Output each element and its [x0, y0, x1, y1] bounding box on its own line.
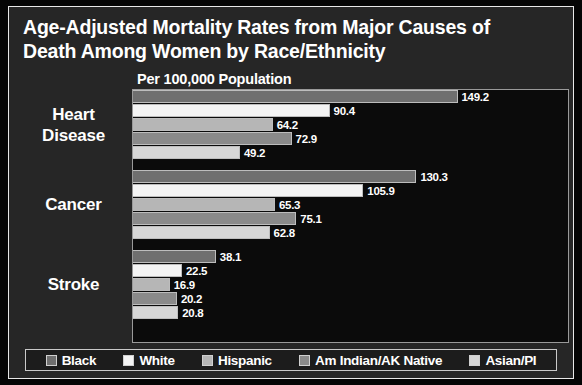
bar: [133, 212, 296, 225]
legend-label: Asian/PI: [485, 353, 536, 368]
bar-row: 22.5: [133, 264, 568, 277]
bar-value-label: 72.9: [296, 133, 317, 145]
chart-title-line-1: Age-Adjusted Mortality Rates from Major …: [23, 15, 563, 39]
bar: [133, 90, 458, 103]
bar-value-label: 65.3: [279, 199, 300, 211]
bar-value-label: 38.1: [220, 251, 241, 263]
bar: [133, 170, 416, 183]
chart-subtitle: Per 100,000 Population: [137, 71, 291, 87]
category-label-line: Heart: [16, 104, 131, 125]
bar-row: 20.2: [133, 292, 568, 305]
bar-value-label: 20.8: [182, 307, 203, 319]
bar-row: 62.8: [133, 226, 568, 239]
bar: [133, 198, 275, 211]
bar-row: 20.8: [133, 306, 568, 319]
legend-swatch-icon: [46, 355, 57, 366]
legend-label: Hispanic: [218, 353, 272, 368]
category-label: Cancer: [16, 194, 131, 215]
bar: [133, 250, 216, 263]
bar: [133, 292, 177, 305]
category-label-line: Stroke: [16, 274, 131, 295]
legend-label: Am Indian/AK Native: [315, 353, 442, 368]
group-spacer: [133, 240, 568, 250]
bar-value-label: 64.2: [277, 119, 298, 131]
bar-value-label: 16.9: [174, 279, 195, 291]
bar-value-label: 20.2: [181, 293, 202, 305]
bar: [133, 104, 330, 117]
bar: [133, 306, 178, 319]
bar-row: 72.9: [133, 132, 568, 145]
chart-legend: BlackWhiteHispanicAm Indian/AK NativeAsi…: [25, 349, 557, 371]
legend-swatch-icon: [299, 355, 310, 366]
legend-item[interactable]: Asian/PI: [469, 353, 536, 368]
bar-value-label: 105.9: [367, 185, 394, 197]
bar-row: 149.2: [133, 90, 568, 103]
category-label: HeartDisease: [16, 104, 131, 146]
bar-value-label: 62.8: [274, 227, 295, 239]
legend-swatch-icon: [202, 355, 213, 366]
bar-row: 90.4: [133, 104, 568, 117]
category-label: Stroke: [16, 274, 131, 295]
chart-panel: Age-Adjusted Mortality Rates from Major …: [8, 6, 574, 379]
bar-row: 65.3: [133, 198, 568, 211]
bar: [133, 278, 170, 291]
bar-group: 38.122.516.920.220.8: [133, 250, 568, 319]
bar: [133, 264, 182, 277]
plot-inner: 149.290.464.272.949.2130.3105.965.375.16…: [133, 90, 568, 342]
bar-group: 130.3105.965.375.162.8: [133, 170, 568, 239]
bar-row: 64.2: [133, 118, 568, 131]
bar: [133, 132, 292, 145]
bar-value-label: 22.5: [186, 265, 207, 277]
bar: [133, 226, 270, 239]
bar-value-label: 90.4: [334, 105, 355, 117]
legend-item[interactable]: Hispanic: [202, 353, 272, 368]
bar-row: 130.3: [133, 170, 568, 183]
legend-swatch-icon: [469, 355, 480, 366]
group-spacer: [133, 160, 568, 170]
legend-label: White: [139, 353, 174, 368]
bar-row: 75.1: [133, 212, 568, 225]
chart-title-line-2: Death Among Women by Race/Ethnicity: [23, 39, 563, 63]
category-label-line: Cancer: [16, 194, 131, 215]
chart-title: Age-Adjusted Mortality Rates from Major …: [23, 15, 563, 63]
legend-item[interactable]: White: [123, 353, 174, 368]
legend-item[interactable]: Am Indian/AK Native: [299, 353, 442, 368]
bar-value-label: 75.1: [300, 213, 321, 225]
category-label-line: Disease: [16, 125, 131, 146]
bar-value-label: 49.2: [244, 147, 265, 159]
legend-item[interactable]: Black: [46, 353, 97, 368]
plot-area: 149.290.464.272.949.2130.3105.965.375.16…: [132, 89, 569, 343]
bar-value-label: 149.2: [462, 91, 489, 103]
bar-row: 105.9: [133, 184, 568, 197]
bar-value-label: 130.3: [420, 171, 447, 183]
bar-row: 38.1: [133, 250, 568, 263]
bar: [133, 146, 240, 159]
legend-swatch-icon: [123, 355, 134, 366]
bar-row: 16.9: [133, 278, 568, 291]
bar: [133, 184, 363, 197]
bar-row: 49.2: [133, 146, 568, 159]
legend-label: Black: [62, 353, 97, 368]
chart-image: Age-Adjusted Mortality Rates from Major …: [0, 0, 582, 385]
category-axis-labels: HeartDiseaseCancerStroke: [13, 89, 131, 343]
bar: [133, 118, 273, 131]
bar-group: 149.290.464.272.949.2: [133, 90, 568, 159]
